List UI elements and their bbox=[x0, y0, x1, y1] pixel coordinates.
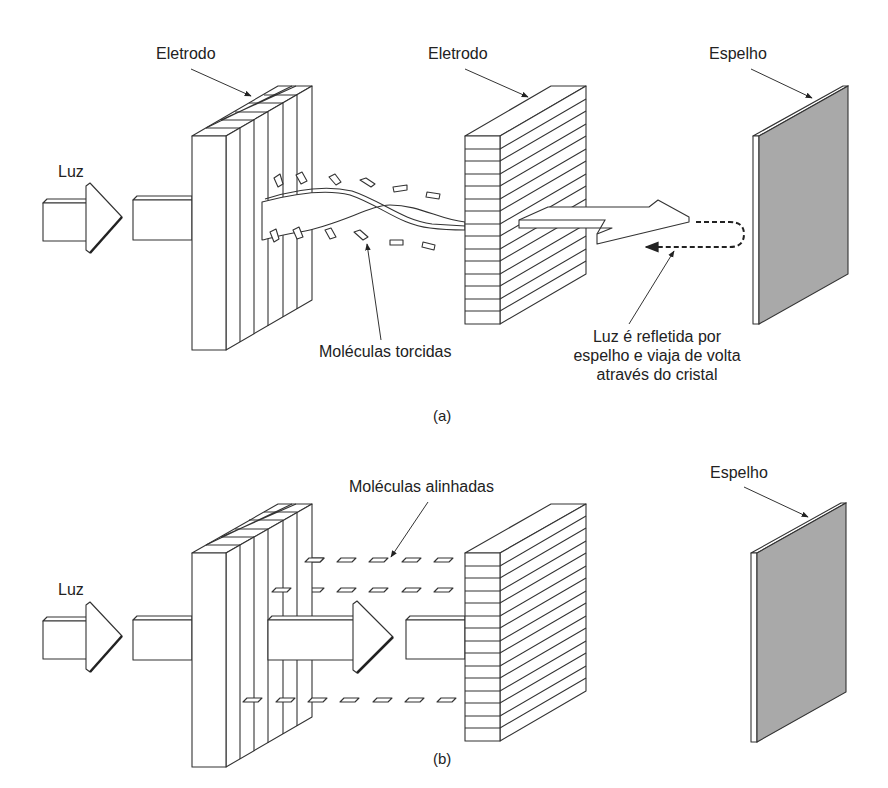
leader-electrode-left bbox=[191, 69, 251, 96]
leader-aligned-molecules bbox=[391, 502, 428, 557]
light-beam-out-b bbox=[406, 616, 465, 659]
label-light-b: Luz bbox=[58, 580, 84, 599]
lcd-diagram bbox=[0, 0, 888, 788]
electrode-right-b bbox=[465, 504, 586, 741]
reflected-line-1: Luz é refletida por bbox=[540, 327, 774, 346]
mirror-b bbox=[751, 503, 846, 742]
light-arrow-icon bbox=[43, 183, 122, 253]
reflected-line-2: espelho e viaja de volta bbox=[540, 346, 774, 365]
figure-a bbox=[43, 69, 848, 350]
label-aligned-molecules: Moléculas alinhadas bbox=[349, 477, 494, 496]
leader-mirror-b bbox=[744, 487, 808, 517]
caption-a: (a) bbox=[433, 407, 451, 424]
light-beam-in-b bbox=[133, 616, 192, 660]
light-beam-in bbox=[133, 196, 192, 240]
light-arrow-icon-b bbox=[43, 602, 122, 672]
reflected-line-3: através do cristal bbox=[540, 365, 774, 384]
figure-b bbox=[43, 487, 846, 767]
leader-electrode-right bbox=[465, 69, 528, 97]
label-mirror-a: Espelho bbox=[709, 44, 767, 63]
label-twisted-molecules: Moléculas torcidas bbox=[319, 342, 452, 361]
label-mirror-b: Espelho bbox=[710, 463, 768, 482]
leader-reflected bbox=[629, 251, 674, 324]
caption-b: (b) bbox=[433, 750, 451, 767]
leader-twisted-molecules bbox=[367, 244, 381, 340]
mirror bbox=[753, 86, 848, 324]
label-reflected-text: Luz é refletida por espelho e viaja de v… bbox=[540, 327, 774, 384]
label-electrode-left: Eletrodo bbox=[156, 44, 216, 63]
electrode-right bbox=[465, 86, 586, 324]
label-electrode-right: Eletrodo bbox=[428, 44, 488, 63]
label-light-a: Luz bbox=[58, 162, 84, 181]
leader-mirror-a bbox=[751, 69, 812, 98]
